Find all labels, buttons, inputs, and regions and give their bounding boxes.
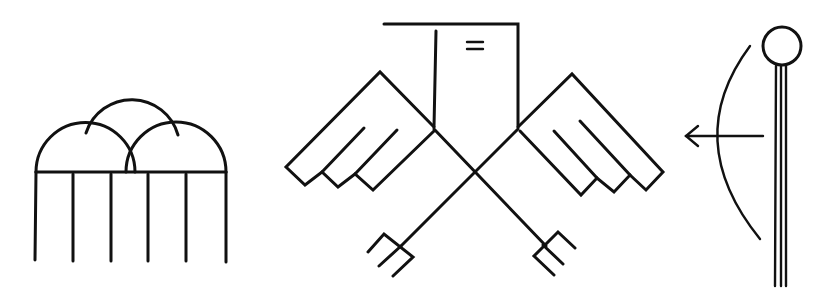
right-leg: [434, 129, 546, 246]
right-wing-feather: [554, 131, 597, 178]
pictograph-canvas: [0, 0, 824, 298]
top-dome-arc: [86, 100, 178, 135]
staff-orb: [763, 27, 801, 65]
bird-symbol: [286, 24, 663, 276]
left-wing-feather: [322, 128, 364, 172]
left-talon-prong: [379, 246, 401, 266]
right-talon-prong: [543, 245, 563, 264]
staff-shaft: [775, 66, 776, 286]
staff-and-bow-symbol: [686, 27, 801, 286]
head-left-side: [434, 31, 436, 127]
left-wing-feather: [355, 130, 397, 174]
bow-arc: [717, 46, 760, 239]
head-outline: [384, 24, 518, 127]
post: [35, 172, 36, 260]
arches-symbol: [35, 100, 226, 262]
